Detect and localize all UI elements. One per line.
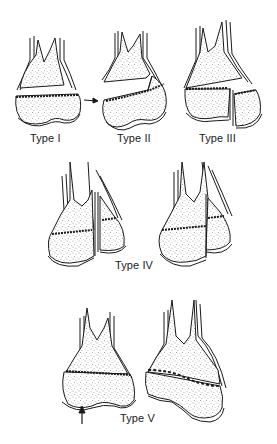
salter-harris-diagram: Type I Type II Type III Type IV Type V <box>0 0 277 444</box>
label-type-1: Type I <box>30 132 61 144</box>
label-type-5: Type V <box>120 412 155 424</box>
type-4a-drawing <box>48 162 126 266</box>
type-5b-drawing <box>145 300 226 422</box>
label-type-2: Type II <box>117 132 151 144</box>
label-type-3: Type III <box>199 132 236 144</box>
type-2-drawing <box>84 31 166 130</box>
type-4b-drawing <box>159 162 232 266</box>
type-5a-drawing <box>62 308 136 424</box>
type-3-drawing <box>184 20 262 128</box>
bone-drawings <box>0 0 277 444</box>
label-type-4: Type IV <box>115 259 153 271</box>
type-1-drawing <box>16 36 81 126</box>
